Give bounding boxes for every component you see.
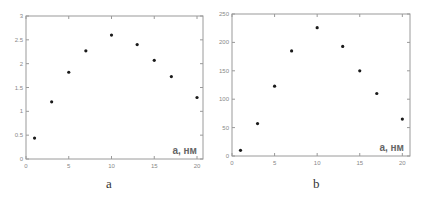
chart-panel-b: 05101520050100150200250a, нм b	[212, 0, 424, 199]
data-point	[67, 71, 70, 74]
y-tick-label: 2	[20, 61, 24, 67]
data-point	[290, 49, 293, 52]
y-tick-label: 250	[219, 11, 230, 17]
scatter-plot-a: 0510152000.511.522.53a, нм	[0, 0, 212, 199]
x-tick-label: 0	[24, 163, 28, 169]
y-tick-label: 100	[219, 96, 230, 102]
data-point	[341, 45, 344, 48]
y-tick-label: 3	[20, 13, 24, 19]
data-point	[33, 136, 36, 139]
data-point	[256, 122, 259, 125]
data-point	[170, 75, 173, 78]
x-tick-label: 10	[108, 163, 115, 169]
data-point	[375, 92, 378, 95]
x-tick-label: 20	[399, 160, 406, 166]
y-tick-label: 0.5	[15, 132, 24, 138]
y-tick-label: 1.5	[15, 85, 24, 91]
y-tick-label: 0	[20, 156, 24, 162]
data-point	[273, 85, 276, 88]
x-tick-label: 5	[67, 163, 71, 169]
x-tick-label: 20	[194, 163, 201, 169]
data-point	[84, 49, 87, 52]
data-point	[110, 33, 113, 36]
data-point	[239, 149, 242, 152]
x-tick-label: 10	[314, 160, 321, 166]
x-tick-label: 0	[230, 160, 234, 166]
data-point	[195, 96, 198, 99]
data-point	[136, 43, 139, 46]
y-tick-label: 200	[219, 39, 230, 45]
plot-frame	[26, 16, 203, 159]
y-tick-label: 2.5	[15, 37, 24, 43]
y-tick-label: 150	[219, 68, 230, 74]
scatter-plot-b: 05101520050100150200250a, нм	[212, 0, 424, 199]
caption-a: a	[106, 176, 112, 192]
y-tick-label: 1	[20, 108, 24, 114]
plot-frame	[232, 14, 410, 156]
x-tick-label: 5	[273, 160, 277, 166]
x-axis-label: a, нм	[379, 142, 404, 153]
x-tick-label: 15	[151, 163, 158, 169]
data-point	[153, 59, 156, 62]
data-point	[50, 100, 53, 103]
y-tick-label: 50	[222, 125, 229, 131]
x-axis-label: a, нм	[172, 145, 197, 156]
y-tick-label: 0	[226, 153, 230, 159]
data-point	[401, 117, 404, 120]
caption-b: b	[313, 176, 320, 192]
data-point	[316, 26, 319, 29]
data-point	[358, 69, 361, 72]
x-tick-label: 15	[356, 160, 363, 166]
chart-panel-a: 0510152000.511.522.53a, нм a	[0, 0, 212, 199]
